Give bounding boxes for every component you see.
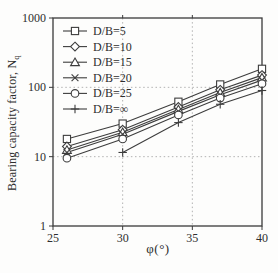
- legend-label: D/B=5: [93, 24, 126, 38]
- y-axis-label-text: Bearing capacity factor, N: [5, 60, 19, 191]
- legend-label: D/B=15: [93, 55, 132, 69]
- y-axis-label: Bearing capacity factor, Nq: [5, 13, 21, 233]
- y-tick-label: 1: [40, 219, 46, 233]
- legend-marker-square: [71, 27, 78, 34]
- legend-label: D/B=∞: [93, 102, 128, 116]
- plot-frame: [53, 18, 262, 226]
- y-axis-label-subscript: q: [11, 55, 21, 60]
- legend-label: D/B=20: [93, 71, 132, 85]
- legend-marker-circle: [71, 90, 79, 98]
- data-point-circle: [119, 135, 127, 143]
- legend-label: D/B=25: [93, 86, 132, 100]
- x-axis-label: φ(°): [0, 241, 278, 257]
- bearing-capacity-chart: 253035401101001000D/B=5D/B=10D/B=15D/B=2…: [0, 0, 278, 273]
- y-tick-label: 10: [34, 150, 46, 164]
- legend-label: D/B=10: [93, 40, 132, 54]
- x-axis-label-text: φ(°): [146, 241, 169, 256]
- y-tick-label: 1000: [22, 11, 46, 25]
- y-tick-label: 100: [28, 80, 46, 94]
- legend-marker-diamond: [71, 42, 80, 51]
- plot-svg: 253035401101001000D/B=5D/B=10D/B=15D/B=2…: [0, 0, 278, 273]
- data-point-circle: [63, 154, 71, 162]
- data-point-circle: [175, 111, 183, 119]
